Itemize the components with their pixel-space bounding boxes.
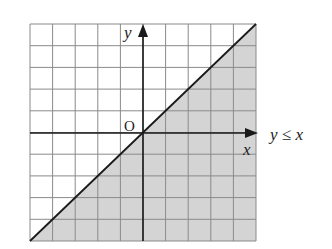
x-axis-label: x: [242, 140, 251, 159]
y-axis-label: y: [122, 23, 132, 42]
inequality-label: y ≤ x: [268, 125, 303, 144]
y-axis-arrow-icon: [138, 24, 148, 37]
inequality-graph: y x O y ≤ x: [0, 0, 332, 249]
origin-label: O: [124, 118, 135, 134]
